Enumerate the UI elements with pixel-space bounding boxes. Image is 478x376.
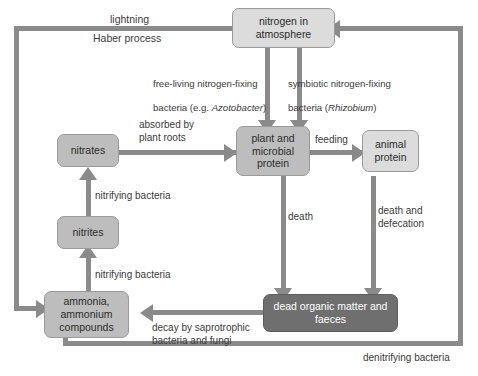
connector-death-defecation — [371, 176, 376, 294]
connector-atmosphere-to-left — [14, 26, 232, 31]
connector-bottom-horizontal — [63, 341, 463, 346]
node-label-nitrates: nitrates — [67, 144, 109, 157]
label-symbiotic-nitrogen-fixing-bacteria: symbiotic nitrogen-fixing bacteria (Rhiz… — [288, 66, 410, 114]
node-nitrates[interactable]: nitrates — [57, 134, 119, 167]
arrowhead-decay-into-ammonia — [140, 304, 153, 322]
label-nitrifying-bacteria-lower: nitrifying bacteria — [95, 269, 171, 282]
node-dead-organic-matter-and-faeces[interactable]: dead organic matter and faeces — [263, 294, 398, 332]
node-label-animal-protein: animal protein — [363, 138, 418, 164]
label-symbiotic-genus: Rhizobium — [328, 102, 373, 113]
connector-left-vertical — [14, 26, 19, 311]
connector-nitrates-to-plant — [118, 150, 236, 155]
connector-decay — [148, 310, 264, 315]
label-free-living-line2-post: ) — [263, 102, 266, 113]
label-free-living-genus: Azotobacter — [212, 102, 263, 113]
label-nitrifying-bacteria-upper: nitrifying bacteria — [95, 190, 171, 203]
node-nitrogen-in-atmosphere[interactable]: nitrogen in atmosphere — [232, 8, 335, 48]
label-death-and-defecation: death and defecation — [378, 205, 424, 230]
node-label-dead-organic-matter-and-faeces: dead organic matter and faeces — [264, 300, 397, 326]
label-denitrifying-bacteria: denitrifying bacteria — [363, 352, 450, 365]
label-lightning: lightning — [110, 13, 149, 26]
node-plant-and-microbial-protein[interactable]: plant and microbial protein — [236, 126, 310, 176]
label-free-living-line2-pre: bacteria (e.g. — [153, 102, 212, 113]
node-animal-protein[interactable]: animal protein — [362, 130, 419, 172]
connector-death — [281, 176, 286, 294]
label-decay-by-saprotrophic-bacteria-and-fungi: decay by saprotrophic bacteria and fungi — [152, 322, 250, 347]
label-feeding: feeding — [315, 134, 348, 147]
arrowhead-into-nitrates — [79, 167, 97, 180]
node-label-plant-and-microbial-protein: plant and microbial protein — [237, 132, 309, 170]
nitrogen-cycle-diagram: nitrogen in atmosphere nitrates nitrites… — [0, 0, 478, 376]
label-haber-process: Haber process — [93, 32, 161, 45]
node-nitrites[interactable]: nitrites — [57, 216, 119, 249]
label-death: death — [288, 211, 313, 224]
node-label-nitrogen-in-atmosphere: nitrogen in atmosphere — [233, 15, 334, 41]
label-symbiotic-line1: symbiotic nitrogen-fixing — [288, 78, 391, 89]
node-label-ammonia-ammonium-compounds: ammonia, ammonium compounds — [45, 295, 128, 333]
label-absorbed-by-plant-roots: absorbed by plant roots — [139, 119, 194, 144]
node-ammonia-ammonium-compounds[interactable]: ammonia, ammonium compounds — [44, 291, 129, 338]
connector-right-into-atmosphere — [335, 26, 458, 31]
connector-right-vertical — [458, 26, 463, 344]
label-free-living-line1: free-living nitrogen-fixing — [153, 78, 258, 89]
label-symbiotic-line2-pre: bacteria ( — [288, 102, 328, 113]
node-label-nitrites: nitrites — [69, 226, 108, 239]
label-symbiotic-line2-post: ) — [373, 102, 376, 113]
label-free-living-nitrogen-fixing-bacteria: free-living nitrogen-fixing bacteria (e.… — [153, 66, 268, 114]
